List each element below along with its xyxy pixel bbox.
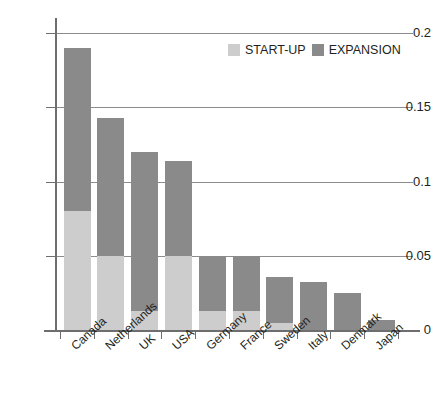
bar-segment-expansion: [165, 161, 192, 256]
bar-segment-start-up: [64, 211, 91, 330]
y-tick-mark: [46, 107, 55, 108]
bar-segment-expansion: [97, 118, 124, 256]
legend-swatch-icon: [228, 44, 240, 56]
y-tick-label: 0.15: [389, 100, 431, 113]
y-tick-mark: [46, 330, 55, 331]
legend-item: START-UP: [228, 44, 306, 57]
legend: START-UPEXPANSION: [228, 44, 401, 57]
legend-item: EXPANSION: [312, 44, 401, 57]
plot-area: [56, 18, 413, 330]
x-tick-mark: [161, 332, 162, 339]
x-tick-mark: [60, 332, 61, 339]
x-axis-label: UK: [137, 332, 157, 352]
legend-label: START-UP: [245, 44, 306, 57]
legend-swatch-icon: [312, 44, 324, 56]
bar-segment-expansion: [266, 277, 293, 323]
y-axis-line: [55, 18, 57, 332]
stacked-bar-chart: 00.050.10.150.2 CanadaNetherlandsUKUSAGe…: [0, 0, 431, 402]
gridline: [56, 107, 413, 108]
bar-usa: [165, 161, 192, 330]
bar-sweden: [266, 277, 293, 330]
y-tick-mark: [46, 33, 55, 34]
y-tick-label: 0.2: [389, 26, 431, 39]
bar-canada: [64, 48, 91, 330]
y-tick-label: 0.1: [389, 175, 431, 188]
y-tick-mark: [46, 182, 55, 183]
bar-germany: [199, 256, 226, 330]
bar-segment-expansion: [64, 48, 91, 211]
bar-segment-start-up: [165, 256, 192, 330]
y-tick-label: 0.05: [389, 249, 431, 262]
legend-label: EXPANSION: [329, 44, 401, 57]
bar-segment-expansion: [233, 256, 260, 311]
bar-segment-expansion: [131, 152, 158, 311]
bar-segment-expansion: [199, 256, 226, 311]
bar-netherlands: [97, 118, 124, 330]
gridline: [56, 33, 413, 34]
y-tick-mark: [46, 256, 55, 257]
